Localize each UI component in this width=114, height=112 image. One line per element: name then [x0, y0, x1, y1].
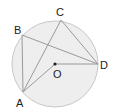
label-point-a: A — [16, 97, 24, 109]
label-point-o: O — [53, 68, 62, 80]
center-dot — [53, 62, 56, 65]
label-point-d: D — [100, 59, 108, 71]
label-point-b: B — [14, 24, 21, 36]
circle-geometry-diagram: A B C D O — [0, 0, 114, 112]
label-point-c: C — [56, 6, 64, 18]
